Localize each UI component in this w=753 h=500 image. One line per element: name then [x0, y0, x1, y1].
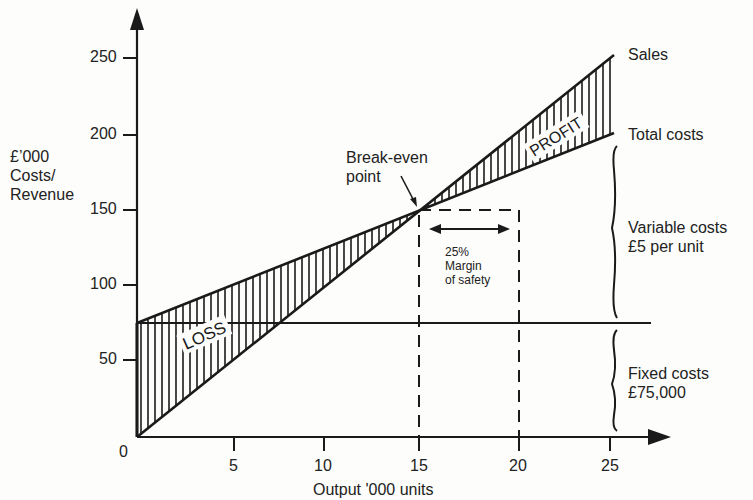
y-axis-title-line-3: Revenue — [10, 185, 74, 204]
fixed-costs-label: Fixed costs £75,000 — [628, 364, 709, 402]
y-tick-150: 150 — [90, 200, 117, 218]
margin-of-safety-arrow — [429, 224, 510, 234]
x-tick-25: 25 — [601, 457, 619, 475]
x-tick-15: 15 — [410, 457, 428, 475]
fixed-costs-line-2: £75,000 — [628, 383, 709, 402]
x-tick-10: 10 — [314, 457, 332, 475]
sales-line — [137, 55, 614, 437]
break-even-label: Break-even point — [346, 148, 428, 186]
break-even-line-1: Break-even — [346, 148, 428, 167]
fixed-costs-line-1: Fixed costs — [628, 364, 709, 383]
y-tick-200: 200 — [90, 125, 117, 143]
y-tick-250: 250 — [90, 48, 117, 66]
variable-costs-line-2: £5 per unit — [628, 237, 727, 256]
y-axis-title: £’000 Costs/ Revenue — [10, 147, 74, 204]
x-axis — [137, 429, 671, 451]
variable-costs-label: Variable costs £5 per unit — [628, 218, 727, 256]
y-axis-title-line-1: £’000 — [10, 147, 74, 166]
break-even-line-2: point — [346, 167, 428, 186]
x-tick-5: 5 — [229, 457, 238, 475]
y-axis-title-line-2: Costs/ — [10, 166, 74, 185]
total-costs-label: Total costs — [628, 125, 704, 144]
origin-label: 0 — [119, 443, 128, 461]
sales-label: Sales — [628, 45, 668, 64]
mos-line-3: of safety — [445, 273, 490, 287]
mos-line-2: Margin — [445, 259, 490, 273]
x-axis-title: Output '000 units — [313, 480, 433, 499]
variable-costs-brace — [612, 146, 617, 318]
x-tick-20: 20 — [509, 457, 527, 475]
fixed-costs-brace — [612, 330, 617, 431]
y-tick-50: 50 — [99, 350, 117, 368]
margin-of-safety-label: 25% Margin of safety — [445, 245, 490, 287]
variable-costs-line-1: Variable costs — [628, 218, 727, 237]
mos-line-1: 25% — [445, 245, 490, 259]
y-tick-100: 100 — [90, 275, 117, 293]
